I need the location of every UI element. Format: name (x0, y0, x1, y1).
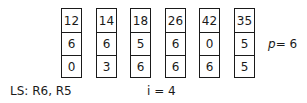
cell: 12 (62, 9, 81, 32)
p-annotation: p= 6 (268, 38, 297, 50)
cell: 0 (62, 55, 81, 78)
column-5: 42 0 6 (199, 8, 220, 78)
cell: 6 (97, 32, 116, 55)
cell: 6 (166, 55, 185, 78)
ls-annotation: LS: R6, R5 (10, 85, 72, 97)
cell: 5 (131, 32, 150, 55)
cell: 14 (97, 9, 116, 32)
cell: 6 (200, 55, 219, 78)
column-4: 26 6 6 (165, 8, 186, 78)
cell: 42 (200, 9, 219, 32)
cell: 6 (166, 32, 185, 55)
cell: 3 (97, 55, 116, 78)
cell: 5 (235, 32, 254, 55)
i-annotation: i = 4 (147, 85, 176, 97)
cell: 18 (131, 9, 150, 32)
column-3: 18 5 6 (130, 8, 151, 78)
column-6: 35 5 5 (234, 8, 255, 78)
column-2: 14 6 3 (96, 8, 117, 78)
cell: 5 (235, 55, 254, 78)
column-1: 12 6 0 (61, 8, 82, 78)
cell: 6 (62, 32, 81, 55)
cell: 6 (131, 55, 150, 78)
cell: 35 (235, 9, 254, 32)
p-symbol: p (268, 37, 276, 51)
p-value: = 6 (276, 37, 298, 51)
cell: 0 (200, 32, 219, 55)
cell: 26 (166, 9, 185, 32)
